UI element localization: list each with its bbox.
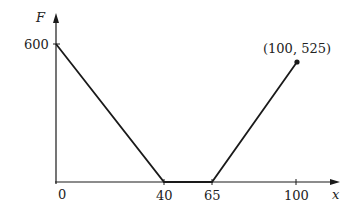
point-annotation: (100, 525) [263,41,331,56]
x-tick-label-40: 40 [156,188,173,203]
x-tick-label-0: 0 [58,187,66,202]
y-tick-label-600: 600 [24,37,49,52]
y-axis-arrow-icon [53,13,59,23]
x-tick-label-100: 100 [284,188,309,203]
y-axis-label: F [35,10,46,25]
x-tick-label-65: 65 [204,188,221,203]
x-axis-label: x [332,187,340,202]
chart-canvas: F 600 0 40 65 100 x (100, 525) [0,0,354,219]
f-series-line [56,44,297,182]
x-axis-arrow-icon [330,179,340,185]
data-point-marker [294,59,299,64]
